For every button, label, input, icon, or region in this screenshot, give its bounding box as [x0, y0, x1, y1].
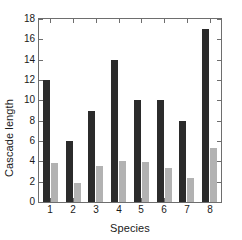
- y-axis-tick-label: 18: [24, 14, 35, 24]
- y-axis-tick-mirror: [217, 141, 221, 142]
- bar-light: [165, 168, 172, 202]
- bar-light: [210, 148, 217, 202]
- bar-light: [51, 163, 58, 202]
- y-axis-title: Cascade length: [2, 0, 16, 240]
- x-axis-tick-mirror: [73, 19, 74, 23]
- x-axis-tick-mirror: [210, 19, 211, 23]
- bar-dark: [134, 100, 141, 202]
- y-axis-tick-label: 12: [24, 75, 35, 85]
- y-axis-tick-mirror: [217, 202, 221, 203]
- bar-dark: [88, 111, 95, 203]
- x-axis-tick-label: 7: [184, 205, 190, 215]
- plot-area: 02468101214161812345678: [38, 18, 222, 203]
- y-axis-tick-label: 0: [29, 197, 35, 207]
- plot-inner: 02468101214161812345678: [39, 19, 221, 202]
- y-axis-tick-label: 8: [29, 116, 35, 126]
- bar-dark: [111, 60, 118, 202]
- y-axis-tick-mirror: [217, 161, 221, 162]
- y-axis-tick: 16: [39, 39, 43, 40]
- y-axis-tick-mirror: [217, 60, 221, 61]
- bar-light: [74, 183, 81, 202]
- x-axis-tick-mirror: [96, 19, 97, 23]
- x-axis-tick-label: 8: [207, 205, 213, 215]
- bar-dark: [157, 100, 164, 202]
- x-axis-tick-label: 6: [161, 205, 167, 215]
- bar-light: [119, 161, 126, 202]
- bar-dark: [43, 80, 50, 202]
- bar-light: [142, 162, 149, 202]
- bar-dark: [66, 141, 73, 202]
- x-axis-tick-mirror: [141, 19, 142, 23]
- bar-dark: [179, 121, 186, 202]
- x-axis-title: Species: [38, 222, 222, 234]
- y-axis-tick-mirror: [217, 182, 221, 183]
- y-axis-tick-label: 10: [24, 95, 35, 105]
- y-axis-tick: 0: [39, 202, 43, 203]
- chart-figure: Cascade length 02468101214161812345678 S…: [0, 0, 242, 240]
- y-axis-title-text: Cascade length: [3, 99, 15, 177]
- x-axis-tick-mirror: [119, 19, 120, 23]
- bar-light: [96, 166, 103, 202]
- y-axis-tick: 14: [39, 60, 43, 61]
- x-axis-tick-mirror: [50, 19, 51, 23]
- y-axis-tick-label: 4: [29, 156, 35, 166]
- x-axis-tick-label: 2: [70, 205, 76, 215]
- y-axis-tick-label: 2: [29, 177, 35, 187]
- x-axis-tick-label: 4: [116, 205, 122, 215]
- y-axis-tick-label: 16: [24, 34, 35, 44]
- y-axis-tick: 18: [39, 19, 43, 20]
- bar-dark: [202, 29, 209, 202]
- bar-light: [187, 178, 194, 202]
- x-axis-tick-mirror: [187, 19, 188, 23]
- x-axis-tick-label: 5: [138, 205, 144, 215]
- y-axis-tick-label: 14: [24, 55, 35, 65]
- y-axis-tick-label: 6: [29, 136, 35, 146]
- y-axis-tick-mirror: [217, 100, 221, 101]
- x-axis-tick-mirror: [164, 19, 165, 23]
- y-axis-tick-mirror: [217, 19, 221, 20]
- y-axis-tick-mirror: [217, 39, 221, 40]
- x-axis-tick-label: 3: [93, 205, 99, 215]
- x-axis-tick-label: 1: [47, 205, 53, 215]
- y-axis-tick-mirror: [217, 121, 221, 122]
- y-axis-tick-mirror: [217, 80, 221, 81]
